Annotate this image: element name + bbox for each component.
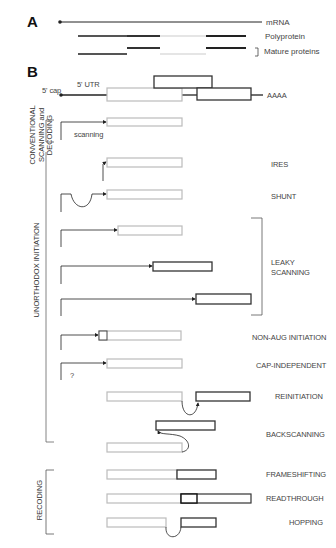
diagram-graphics: [0, 0, 336, 548]
